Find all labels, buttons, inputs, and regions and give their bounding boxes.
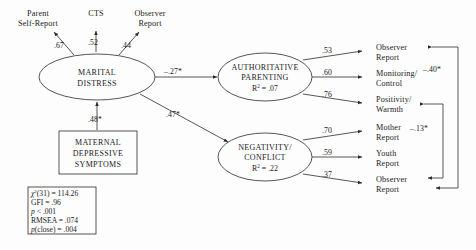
loading-value-youth-report: .59 <box>322 148 332 157</box>
fit-line-gfi: GFI = .96 <box>31 198 61 207</box>
indicator-label-line1: Parent <box>27 9 49 18</box>
indicator-label-line2: Report <box>138 19 162 28</box>
latent-negativity-conflict: NEGATIVITY/ CONFLICT R2 = .22 <box>218 133 312 181</box>
latent-marital-distress: MARITAL DISTRESS <box>39 54 155 100</box>
loading-arrow-observer-report-negativity <box>303 174 362 183</box>
loading-value-positivity-warmth: .76 <box>322 90 332 99</box>
indicator-label-line1: CTS <box>88 9 104 18</box>
indicator-label-line2: Control <box>376 79 403 88</box>
fit-line-pclose: p(close) = .004 <box>30 225 77 234</box>
correlation-path-inner <box>424 104 443 178</box>
indicator-label-line1: Mother <box>376 123 401 132</box>
indicator-observer-report-negativity: Observer Report <box>376 175 407 194</box>
indicator-label-line1: Positivity/ <box>376 95 412 104</box>
loading-arrow-mother-report <box>303 131 362 140</box>
p-value: < .001 <box>35 207 57 216</box>
indicator-label-line2: Warmth <box>376 105 403 114</box>
indicator-label-line2: Report <box>376 185 400 194</box>
box-label-line1: MATERNAL <box>75 138 121 147</box>
loading-value-cts: .52 <box>88 38 98 47</box>
indicator-label-line1: Youth <box>376 149 396 158</box>
fit-line-chisquare: χ2(31) = 114.26 <box>30 189 78 198</box>
correlation-value-outer: –.40* <box>422 65 441 74</box>
path-diagram: Parent Self-Report CTS Observer Report .… <box>0 0 476 250</box>
fit-line-rmsea: RMSEA = .074 <box>31 216 78 225</box>
loading-arrow-positivity-warmth <box>303 94 362 103</box>
indicator-label-line2: Self-Report <box>18 19 58 28</box>
figure-canvas: Parent Self-Report CTS Observer Report .… <box>0 0 476 250</box>
indicator-youth-report: Youth Report <box>376 149 400 168</box>
latent-label-line2: CONFLICT <box>244 153 286 162</box>
indicator-label-line2: Report <box>376 133 400 142</box>
path-arrow-md-to-negativity-conflict <box>140 94 228 142</box>
rsquared-authoritative-parenting: R2 = .07 <box>252 83 278 93</box>
latent-label-line1: MARITAL <box>78 68 116 77</box>
indicator-mother-report: Mother Report <box>376 123 401 142</box>
fit-line-pvalue: p < .001 <box>30 207 56 216</box>
path-value-mds-to-marital-distress: .48* <box>88 115 102 124</box>
indicator-label-line1: Observer <box>376 175 407 184</box>
latent-authoritative-parenting: AUTHORITATIVE PARENTING R2 = .07 <box>218 53 312 101</box>
loading-value-mother-report: .70 <box>322 126 332 135</box>
indicator-label-line1: Observer <box>376 43 407 52</box>
box-label-line2: DEPRESSIVE <box>73 149 124 158</box>
rsquared-negativity-conflict: R2 = .22 <box>252 163 278 173</box>
loading-value-parent-self-report: .67 <box>54 41 64 50</box>
rsquared-value: = .07 <box>260 84 278 93</box>
correlation-value-inner: –.13* <box>409 124 428 133</box>
indicator-label-line2: Report <box>376 159 400 168</box>
box-label-line3: SYMPTOMS <box>75 160 121 169</box>
pclose-value: (close) = .004 <box>35 225 77 234</box>
chi-value: (31) = 114.26 <box>37 189 79 198</box>
ellipse-outline <box>39 54 155 100</box>
indicator-observer-report-parenting: Observer Report <box>376 43 407 62</box>
loading-value-observer-report-marital: .44 <box>121 41 131 50</box>
indicator-label-line1: Observer <box>134 9 165 18</box>
path-value-md-to-authoritative-parenting: –.27* <box>163 67 182 76</box>
indicator-parent-self-report: Parent Self-Report <box>18 9 58 28</box>
indicator-positivity-warmth: Positivity/ Warmth <box>376 95 412 114</box>
loading-value-observer-report-parenting: .53 <box>322 46 332 55</box>
observed-maternal-depressive-symptoms: MATERNAL DEPRESSIVE SYMPTOMS <box>59 131 137 174</box>
latent-label-line2: DISTRESS <box>77 79 116 88</box>
indicator-label-line1: Monitoring/ <box>376 69 418 78</box>
path-value-md-to-negativity-conflict: .47* <box>166 110 180 119</box>
indicator-observer-report-marital: Observer Report <box>134 9 165 28</box>
latent-label-line1: AUTHORITATIVE <box>231 63 298 72</box>
indicator-cts: CTS <box>88 9 104 18</box>
rsquared-value: = .22 <box>260 164 278 173</box>
fit-statistics-box: χ2(31) = 114.26 GFI = .96 p < .001 RMSEA… <box>28 187 96 234</box>
loading-value-monitoring-control: .60 <box>322 68 332 77</box>
loading-arrow-observer-report-parenting <box>303 51 362 60</box>
loading-value-observer-report-negativity: .37 <box>322 170 332 179</box>
latent-label-line1: NEGATIVITY/ <box>238 143 292 152</box>
indicator-label-line2: Report <box>376 53 400 62</box>
latent-label-line2: PARENTING <box>241 73 288 82</box>
indicator-monitoring-control: Monitoring/ Control <box>376 69 418 88</box>
